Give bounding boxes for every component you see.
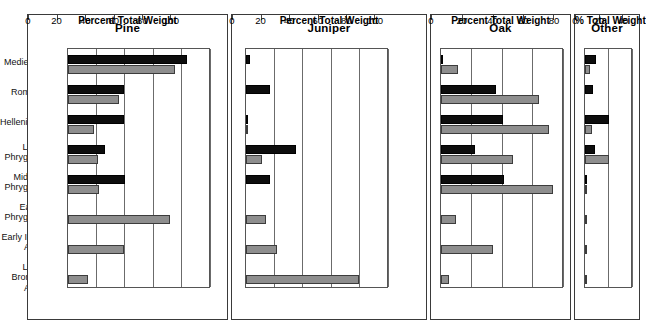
bar-gray: [68, 155, 98, 164]
category-band: [68, 139, 209, 169]
bar-gray: [441, 95, 539, 104]
category-band: [441, 229, 562, 259]
panel-oak: Oak 020406080Percent Total Weight: [430, 14, 571, 320]
x-axis-title-pine: Percent Total Weight: [28, 15, 227, 27]
category-band: [441, 139, 562, 169]
bar-gray: [68, 65, 175, 74]
bar-gray: [441, 215, 456, 224]
bar-black: [585, 145, 595, 154]
x-axis-title-oak: Percent Total Weight: [431, 15, 570, 27]
category-band: [585, 109, 631, 139]
category-band: [68, 259, 209, 289]
category-band: [68, 49, 209, 79]
category-band: [246, 109, 387, 139]
category-band: [246, 49, 387, 79]
plot-area-pine: [67, 48, 210, 288]
bar-black: [441, 175, 504, 184]
bar-black: [585, 115, 609, 124]
bar-gray: [68, 125, 94, 134]
bar-black: [68, 145, 105, 154]
bar-gray: [441, 155, 513, 164]
bar-gray: [246, 155, 262, 164]
bar-gray: [68, 245, 124, 254]
bar-black: [246, 145, 296, 154]
category-band: [441, 79, 562, 109]
category-band: [441, 109, 562, 139]
category-band: [585, 229, 631, 259]
category-band: [246, 229, 387, 259]
bar-gray: [585, 275, 587, 284]
bar-gray: [441, 125, 549, 134]
category-band: [441, 199, 562, 229]
bar-gray: [441, 65, 458, 74]
bar-gray: [246, 125, 248, 134]
bar-black: [441, 85, 496, 94]
plot-area-oak: [440, 48, 563, 288]
bar-black: [585, 85, 593, 94]
category-band: [585, 169, 631, 199]
category-band: [441, 49, 562, 79]
bar-black: [441, 55, 443, 64]
bar-gray: [585, 125, 592, 134]
bar-black: [585, 175, 587, 184]
panel-juniper: Juniper 020406080100Percent Total Weight: [231, 14, 427, 320]
bar-gray: [585, 65, 590, 74]
plot-area-other: [584, 48, 632, 288]
bar-gray: [68, 95, 119, 104]
panel-other: Other 02040% Total Weight: [574, 14, 640, 320]
category-band: [246, 259, 387, 289]
bar-gray: [441, 245, 493, 254]
category-band: [246, 199, 387, 229]
category-band: [246, 169, 387, 199]
category-band: [246, 79, 387, 109]
category-band: [585, 199, 631, 229]
bar-black: [246, 115, 248, 124]
category-band: [441, 169, 562, 199]
category-band: [68, 199, 209, 229]
bar-gray: [585, 185, 587, 194]
category-band: [441, 259, 562, 289]
bar-gray: [68, 215, 170, 224]
plot-area-juniper: [245, 48, 388, 288]
x-axis-title-other: % Total Weight: [575, 15, 639, 27]
category-band: [585, 259, 631, 289]
category-band: [68, 109, 209, 139]
category-band: [246, 139, 387, 169]
bar-gray: [585, 215, 587, 224]
panel-pine: Pine 020406080100Percent Total Weight: [27, 14, 228, 320]
bar-black: [68, 115, 124, 124]
bar-gray: [68, 275, 88, 284]
bar-black: [441, 145, 475, 154]
multi-panel-bar-chart: MedievalRomanHellenisticLate PhrygianMid…: [0, 0, 646, 334]
bar-gray: [441, 185, 553, 194]
bar-black: [585, 55, 596, 64]
bar-black: [246, 175, 270, 184]
bar-gray: [441, 275, 449, 284]
bar-black: [246, 55, 250, 64]
gridline: [388, 49, 389, 287]
bar-black: [246, 85, 270, 94]
bar-black: [68, 55, 187, 64]
gridline: [210, 49, 211, 287]
bar-black: [441, 115, 503, 124]
bar-black: [68, 175, 125, 184]
category-band: [585, 79, 631, 109]
category-band: [585, 49, 631, 79]
category-band: [585, 139, 631, 169]
x-axis-title-juniper: Percent Total Weight: [232, 15, 426, 27]
gridline: [632, 49, 633, 287]
bar-gray: [68, 185, 99, 194]
category-band: [68, 229, 209, 259]
category-band: [68, 79, 209, 109]
bar-gray: [246, 245, 277, 254]
bar-gray: [585, 155, 609, 164]
gridline: [563, 49, 564, 287]
bar-black: [68, 85, 124, 94]
category-band: [68, 169, 209, 199]
bar-gray: [246, 215, 266, 224]
bar-gray: [246, 275, 359, 284]
bar-gray: [585, 245, 587, 254]
